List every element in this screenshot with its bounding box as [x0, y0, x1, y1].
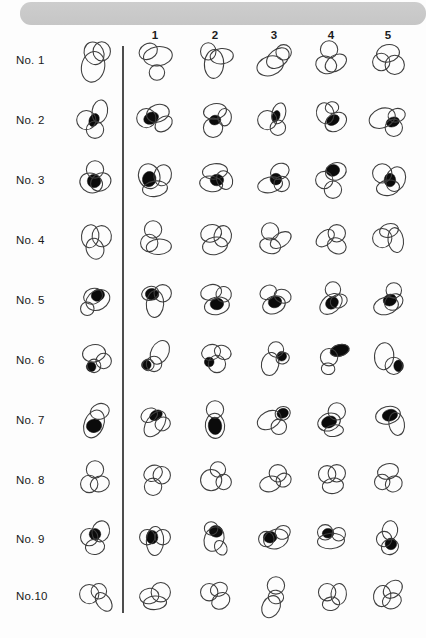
- option-figure-4[interactable]: [304, 215, 358, 269]
- option-figure-3[interactable]: [247, 275, 301, 329]
- option-figure-2[interactable]: [188, 155, 242, 209]
- target-figure: [68, 571, 122, 625]
- option-figure-1[interactable]: [128, 275, 182, 329]
- option-figure-4[interactable]: [304, 95, 358, 149]
- option-figure-1[interactable]: [128, 155, 182, 209]
- option-figure-3[interactable]: [247, 95, 301, 149]
- target-figure: [68, 395, 122, 449]
- option-figure-5[interactable]: [361, 455, 415, 509]
- option-figure-3[interactable]: [247, 35, 301, 89]
- option-figure-2[interactable]: [188, 275, 242, 329]
- option-figure-4[interactable]: [304, 275, 358, 329]
- option-figure-1[interactable]: [128, 455, 182, 509]
- row-label: No. 7: [16, 414, 64, 426]
- option-figure-3[interactable]: [247, 455, 301, 509]
- option-figure-2[interactable]: [188, 571, 242, 625]
- target-figure: [68, 275, 122, 329]
- option-figure-4[interactable]: [304, 155, 358, 209]
- target-figure: [68, 35, 122, 89]
- option-figure-4[interactable]: [304, 455, 358, 509]
- option-figure-5[interactable]: [361, 275, 415, 329]
- target-figure: [68, 335, 122, 389]
- window-top-bar: [20, 2, 426, 25]
- option-figure-2[interactable]: [188, 395, 242, 449]
- target-figure: [68, 95, 122, 149]
- option-figure-4[interactable]: [304, 514, 358, 568]
- target-figure: [68, 455, 122, 509]
- row-label: No. 3: [16, 174, 64, 186]
- option-figure-4[interactable]: [304, 35, 358, 89]
- option-figure-5[interactable]: [361, 395, 415, 449]
- option-figure-5[interactable]: [361, 35, 415, 89]
- option-figure-3[interactable]: [247, 395, 301, 449]
- option-figure-5[interactable]: [361, 514, 415, 568]
- option-figure-1[interactable]: [128, 95, 182, 149]
- row-label: No.10: [16, 590, 64, 602]
- row-label: No. 1: [16, 54, 64, 66]
- option-figure-3[interactable]: [247, 155, 301, 209]
- option-figure-5[interactable]: [361, 571, 415, 625]
- option-figure-1[interactable]: [128, 395, 182, 449]
- option-figure-1[interactable]: [128, 35, 182, 89]
- row-label: No. 9: [16, 533, 64, 545]
- option-figure-4[interactable]: [304, 571, 358, 625]
- option-figure-5[interactable]: [361, 215, 415, 269]
- target-figure: [68, 155, 122, 209]
- row-label: No. 2: [16, 114, 64, 126]
- option-figure-2[interactable]: [188, 514, 242, 568]
- option-figure-3[interactable]: [247, 514, 301, 568]
- option-figure-1[interactable]: [128, 215, 182, 269]
- option-figure-1[interactable]: [128, 335, 182, 389]
- option-figure-3[interactable]: [247, 215, 301, 269]
- option-figure-2[interactable]: [188, 215, 242, 269]
- target-options-divider: [122, 46, 124, 613]
- target-figure: [68, 514, 122, 568]
- row-label: No. 8: [16, 474, 64, 486]
- row-label: No. 4: [16, 234, 64, 246]
- option-figure-3[interactable]: [247, 571, 301, 625]
- option-figure-2[interactable]: [188, 35, 242, 89]
- test-sheet: 12345No. 1No. 2No. 3No. 4No. 5No. 6No. 7…: [0, 0, 426, 638]
- option-figure-2[interactable]: [188, 455, 242, 509]
- option-figure-4[interactable]: [304, 395, 358, 449]
- option-figure-4[interactable]: [304, 335, 358, 389]
- option-figure-2[interactable]: [188, 95, 242, 149]
- option-figure-2[interactable]: [188, 335, 242, 389]
- option-figure-5[interactable]: [361, 155, 415, 209]
- option-figure-1[interactable]: [128, 571, 182, 625]
- option-figure-5[interactable]: [361, 335, 415, 389]
- option-figure-3[interactable]: [247, 335, 301, 389]
- target-figure: [68, 215, 122, 269]
- option-figure-5[interactable]: [361, 95, 415, 149]
- row-label: No. 6: [16, 354, 64, 366]
- option-figure-1[interactable]: [128, 514, 182, 568]
- row-label: No. 5: [16, 294, 64, 306]
